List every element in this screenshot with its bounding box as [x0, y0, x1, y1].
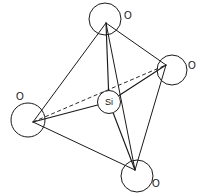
edge-top-left [33, 23, 106, 122]
oxygen-left-label: O [16, 92, 24, 102]
oxygen-bottom-label: O [152, 179, 160, 189]
oxygen-right-circle [157, 55, 187, 85]
silicon-atom-label: Si [98, 98, 121, 107]
oxygen-bottom-circle [121, 160, 153, 192]
oxygen-top-circle [89, 3, 121, 35]
oxygen-right-label: O [188, 61, 196, 71]
sio4-tetrahedron-diagram: OOOOSi [0, 0, 207, 196]
oxygen-left-circle [11, 103, 45, 137]
oxygen-top-label: O [124, 11, 132, 21]
edge-left-right [33, 65, 166, 122]
